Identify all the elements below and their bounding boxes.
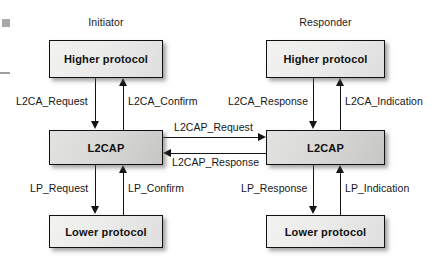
label-lp-response: LP_Response (241, 182, 308, 194)
arrow-line-initiator-l2ca-confirm (123, 86, 125, 130)
label-lp-confirm: LP_Confirm (128, 182, 184, 194)
label-l2cap-request: L2CAP_Request (174, 121, 253, 133)
arrow-line-initiator-lp-confirm (123, 173, 125, 215)
label-lp-request: LP_Request (30, 182, 88, 194)
arrow-line-l2cap-response (171, 153, 266, 155)
box-higher-protocol-responder: Higher protocol (266, 40, 385, 78)
scan-artifact-dash (0, 72, 10, 74)
arrowhead-left-l2cap-response (163, 149, 171, 157)
box-higher-protocol-initiator: Higher protocol (49, 40, 163, 78)
arrow-line-l2cap-request (163, 137, 259, 139)
box-lower-protocol-initiator: Lower protocol (49, 215, 163, 248)
arrowhead-down-initiator-lp-request (91, 206, 99, 214)
arrow-line-initiator-l2ca-request (95, 78, 97, 122)
arrowhead-up-responder-lp-indication (336, 165, 344, 173)
arrow-line-responder-lp-response (313, 165, 315, 207)
label-lp-indication: LP_Indication (345, 182, 409, 194)
arrowhead-down-responder-l2ca-response (309, 121, 317, 129)
arrowhead-up-initiator-lp-confirm (119, 165, 127, 173)
scan-artifact-square (2, 19, 10, 27)
arrow-line-responder-lp-indication (340, 173, 342, 215)
label-l2ca-confirm: L2CA_Confirm (128, 95, 197, 107)
arrowhead-up-responder-l2ca-indication (336, 78, 344, 86)
label-l2cap-response: L2CAP_Response (172, 156, 259, 168)
box-lower-protocol-responder: Lower protocol (266, 215, 385, 248)
arrow-line-initiator-lp-request (95, 165, 97, 207)
arrowhead-right-l2cap-request (258, 133, 266, 141)
box-l2cap-initiator: L2CAP (49, 130, 163, 165)
label-l2ca-request: L2CA_Request (16, 95, 88, 107)
arrowhead-down-initiator-l2ca-request (91, 121, 99, 129)
label-l2ca-response: L2CA_Response (228, 95, 308, 107)
label-l2ca-indication: L2CA_Indication (345, 95, 423, 107)
box-l2cap-responder: L2CAP (266, 130, 385, 165)
arrowhead-down-responder-lp-response (309, 206, 317, 214)
diagram-canvas: Initiator Responder Higher protocol L2CA… (0, 0, 441, 268)
arrow-line-responder-l2ca-response (313, 78, 315, 122)
arrow-line-responder-l2ca-indication (340, 86, 342, 130)
arrowhead-up-initiator-l2ca-confirm (119, 78, 127, 86)
column-caption-responder: Responder (266, 16, 385, 28)
column-caption-initiator: Initiator (49, 16, 163, 28)
